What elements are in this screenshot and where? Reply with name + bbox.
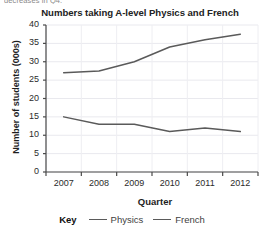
clipped-text-fragment: decreases in Q4. [4, 0, 62, 4]
grid-lines [46, 25, 258, 172]
x-tick-label: 2008 [79, 178, 119, 188]
legend-title: Key [59, 214, 76, 225]
y-tick-label: 25 [0, 74, 39, 84]
y-tick-label: 10 [0, 129, 39, 139]
y-tick-label: 40 [0, 19, 39, 29]
legend-item-physics[interactable]: Physics [89, 214, 144, 225]
x-tick-label: 2012 [220, 178, 260, 188]
chart-legend: Key Physics French [0, 214, 264, 225]
y-tick-label: 5 [0, 148, 39, 158]
plot-area: 0510152025303540 [0, 18, 264, 178]
chart-title: Numbers taking A-level Physics and Frenc… [0, 7, 264, 18]
line-swatch-icon [89, 219, 107, 220]
y-tick-label: 15 [0, 111, 39, 121]
y-tick-label: 0 [0, 166, 39, 176]
line-chart-svg [0, 18, 264, 178]
x-tick-label: 2007 [44, 178, 84, 188]
legend-item-french[interactable]: French [153, 214, 205, 225]
x-tick-label: 2009 [114, 178, 154, 188]
y-tick-label: 35 [0, 37, 39, 47]
legend-label-physics: Physics [111, 214, 144, 225]
legend-label-french: French [175, 214, 205, 225]
x-tick-label: 2011 [185, 178, 225, 188]
y-tick-label: 30 [0, 56, 39, 66]
y-tick-label: 20 [0, 93, 39, 103]
line-swatch-icon [153, 219, 171, 220]
x-tick-label: 2010 [150, 178, 190, 188]
x-axis-label: Quarter [46, 196, 264, 207]
